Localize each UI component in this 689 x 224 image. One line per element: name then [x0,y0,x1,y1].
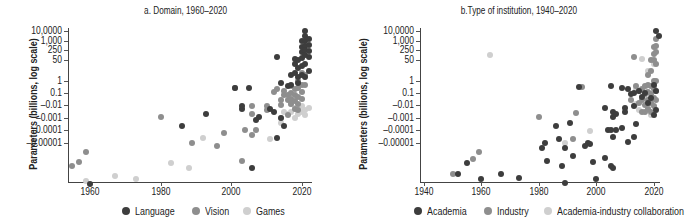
data-point [278,102,284,108]
y-tick-label: 50 [355,55,415,65]
y-tick [64,60,68,61]
y-tick [416,143,420,144]
legend: Academia Industry Academia-industry coll… [414,205,689,217]
data-point [653,43,659,49]
data-point [613,111,619,117]
data-point [285,112,291,118]
y-tick [416,41,420,42]
data-point [516,175,522,181]
y-tick-label: –0.01 [355,100,415,110]
data-point [498,171,504,177]
data-point [610,165,616,171]
y-tick-label: –0.0001 [355,125,415,135]
data-point [200,135,206,141]
x-axis [420,182,660,183]
y-tick-label: –0.01 [3,100,63,110]
y-tick [416,118,420,119]
y-tick [64,105,68,106]
chart-title: a. Domain, 1960–2020 [144,5,227,16]
data-point [278,80,284,86]
data-point [278,115,284,121]
y-tick-label: 0.1 [355,88,415,98]
dot-icon [484,207,492,215]
data-point [544,158,550,164]
data-point [562,180,568,186]
x-tick-label: 2000 [579,186,613,197]
data-point [631,134,637,140]
legend-item-vision: Vision [192,205,233,217]
chart-panel-institution: b.Type of institution, 1940–2020 Paramet… [330,0,660,224]
data-point [573,110,579,116]
data-point [602,105,608,111]
data-point [590,159,596,165]
data-point [306,54,312,60]
y-tick [416,93,420,94]
data-point [455,171,461,177]
data-point [288,82,294,88]
chart-title: b.Type of institution, 1940–2020 [461,5,577,16]
x-tick-label: 1960 [464,186,498,197]
y-tick [64,93,68,94]
y-tick-label: 1 [355,76,415,86]
data-point [553,123,559,129]
dot-icon [122,207,130,215]
data-point [302,112,308,118]
y-tick [416,60,420,61]
legend-item-games: Games [243,205,290,217]
x-axis [68,182,312,183]
data-point [625,139,631,145]
data-point [656,33,662,39]
data-point [271,109,277,115]
dot-icon [544,207,552,215]
data-point [249,103,255,109]
data-point [302,82,308,88]
data-point [648,95,654,101]
data-point [76,159,82,165]
data-point [642,90,648,96]
data-point [274,135,280,141]
data-point [112,173,118,179]
data-point [633,121,639,127]
data-point [158,114,164,120]
y-axis [420,28,421,182]
data-point [179,123,185,129]
legend: Language Vision Games [122,205,300,217]
y-axis [68,28,69,182]
x-tick-label: 2020 [285,186,319,197]
data-point [221,130,227,136]
y-tick [416,50,420,51]
y-tick [416,81,420,82]
y-tick-label: –0.001 [3,113,63,123]
data-point [602,155,608,161]
data-point [570,153,576,159]
data-point [556,136,562,142]
legend-item-academia: Academia [414,205,474,217]
data-point [302,61,308,67]
data-point [306,105,312,111]
data-point [299,89,305,95]
data-point [587,128,593,134]
y-tick-label: –0.00001 [355,138,415,148]
data-point [651,82,657,88]
x-tick-label: 1980 [522,186,556,197]
data-point [653,49,659,55]
data-point [274,86,280,92]
y-tick-label: –0.001 [355,113,415,123]
data-point [653,107,659,113]
y-tick [64,118,68,119]
data-point [476,149,482,155]
data-point [653,97,659,103]
data-point [576,84,582,90]
y-tick [416,31,420,32]
data-point [619,125,625,131]
data-point [653,61,659,67]
chart-panel-domain: a. Domain, 1960–2020 Parameters (billion… [0,0,330,224]
data-point [203,111,209,117]
data-point [542,140,548,146]
x-tick-label: 2020 [637,186,671,197]
data-point [256,114,262,120]
legend-item-collaboration: Academia-industry collaboration [544,205,689,217]
data-point [536,114,542,120]
x-tick-label: 1940 [407,186,441,197]
y-tick-label: –0.0001 [3,125,63,135]
